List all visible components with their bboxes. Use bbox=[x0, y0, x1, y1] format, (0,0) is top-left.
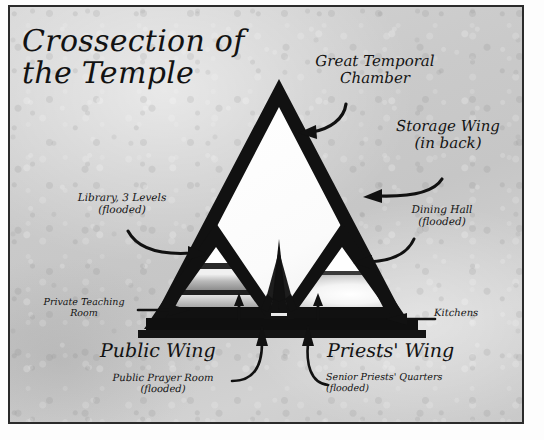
label-dining-hall: Dining Hall (flooded) bbox=[396, 205, 488, 229]
arrow-storage-wing bbox=[378, 179, 442, 196]
label-storage-wing: Storage Wing (in back) bbox=[383, 118, 513, 152]
label-kitchens: Kitchens bbox=[434, 308, 504, 319]
arrow-senior-priests-quarters bbox=[308, 343, 328, 385]
temple-foundation-base bbox=[146, 318, 418, 330]
illustration-page: Crossection of the Temple Great Temporal… bbox=[0, 0, 544, 440]
label-senior-priests-quarters: Senior Priests' Quarters (flooded) bbox=[326, 373, 486, 394]
label-public-prayer-room: Public Prayer Room (flooded) bbox=[93, 373, 233, 395]
label-library: Library, 3 Levels (flooded) bbox=[66, 193, 178, 217]
arrow-dining-hall bbox=[368, 239, 414, 262]
label-private-teaching-room: Private Teaching Room bbox=[28, 298, 140, 319]
page-title: Crossection of the Temple bbox=[22, 26, 272, 89]
arrow-library bbox=[128, 231, 192, 253]
arrow-great-temporal-chamber bbox=[312, 104, 346, 132]
label-public-wing: Public Wing bbox=[100, 341, 250, 362]
label-great-temporal-chamber: Great Temporal Chamber bbox=[300, 53, 450, 87]
label-priests-wing: Priests' Wing bbox=[327, 341, 477, 362]
base-underside bbox=[138, 330, 426, 338]
